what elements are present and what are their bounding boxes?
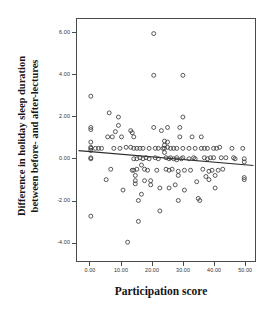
data-point: [89, 140, 93, 144]
data-point: [182, 168, 186, 172]
scatter-plot-figure: Difference in holiday sleep duration bet…: [0, 0, 273, 314]
x-axis-title: Participation score: [56, 285, 266, 297]
data-point: [136, 199, 140, 203]
data-point: [113, 130, 117, 134]
data-point: [126, 240, 130, 244]
x-tick-mark: [245, 262, 246, 266]
data-point: [181, 146, 185, 150]
data-point: [204, 175, 208, 179]
x-tick-label: 20.00: [135, 267, 169, 273]
data-point: [158, 209, 162, 213]
data-point: [176, 199, 180, 203]
data-point: [213, 173, 217, 177]
data-point: [121, 188, 125, 192]
data-point: [106, 135, 110, 139]
data-point: [167, 186, 171, 190]
plot-area: [76, 18, 256, 262]
data-point: [190, 135, 194, 139]
x-tick-mark: [183, 262, 184, 266]
x-tick-label: 10.00: [104, 267, 138, 273]
data-point: [155, 168, 159, 172]
y-tick-label: -2.00: [16, 197, 70, 203]
y-axis-title-line2: between before- and after-lectures: [28, 56, 41, 216]
data-point: [187, 146, 191, 150]
data-point: [133, 173, 137, 177]
data-point: [213, 186, 217, 190]
data-point: [181, 115, 185, 119]
x-tick-label: 0.00: [73, 267, 107, 273]
data-point: [176, 169, 180, 173]
y-tick-label: 4.00: [16, 71, 70, 77]
y-axis-title: Difference in holiday sleep duration bet…: [0, 0, 56, 272]
data-point: [207, 178, 211, 182]
data-point: [147, 146, 151, 150]
data-point: [193, 146, 197, 150]
plot-canvas: [77, 19, 255, 261]
x-tick-label: 30.00: [166, 267, 200, 273]
data-point: [116, 123, 120, 127]
data-point: [181, 73, 185, 77]
data-point: [221, 167, 225, 171]
x-tick-mark: [89, 262, 90, 266]
data-point: [230, 146, 234, 150]
data-point: [224, 156, 228, 160]
y-tick-label: 0.00: [16, 155, 70, 161]
data-point: [176, 173, 180, 177]
data-point: [178, 135, 182, 139]
data-point: [143, 179, 147, 183]
data-point: [124, 145, 128, 149]
data-point: [104, 178, 108, 182]
data-point: [116, 115, 120, 119]
data-point: [241, 146, 245, 150]
x-tick-label: 40.00: [197, 267, 231, 273]
data-point: [195, 180, 199, 184]
data-point: [201, 167, 205, 171]
data-point: [159, 129, 163, 133]
data-point: [139, 163, 143, 167]
x-tick-mark: [152, 262, 153, 266]
data-point: [89, 214, 93, 218]
data-point: [109, 167, 113, 171]
data-point: [107, 111, 111, 115]
y-axis-title-line1: Difference in holiday sleep duration: [15, 56, 28, 216]
x-tick-mark: [121, 262, 122, 266]
data-point: [118, 146, 122, 150]
data-point: [139, 192, 143, 196]
y-tick-label: 6.00: [16, 29, 70, 35]
data-point: [136, 219, 140, 223]
data-point: [132, 135, 136, 139]
data-point: [120, 135, 124, 139]
data-point: [152, 73, 156, 77]
data-point: [158, 186, 162, 190]
data-point: [178, 125, 182, 129]
data-point: [216, 168, 220, 172]
data-point: [219, 156, 223, 160]
data-point: [152, 32, 156, 36]
data-point: [89, 94, 93, 98]
data-point: [199, 135, 203, 139]
data-point: [152, 125, 156, 129]
y-tick-label: 2.00: [16, 113, 70, 119]
x-tick-mark: [214, 262, 215, 266]
data-point: [166, 125, 170, 129]
y-tick-label: -4.00: [16, 239, 70, 245]
data-point: [162, 151, 166, 155]
data-point: [149, 179, 153, 183]
data-point: [189, 168, 193, 172]
x-tick-label: 50.00: [228, 267, 262, 273]
data-point: [110, 135, 114, 139]
data-point: [173, 183, 177, 187]
data-point: [182, 188, 186, 192]
data-point: [112, 146, 116, 150]
data-point: [149, 183, 153, 187]
